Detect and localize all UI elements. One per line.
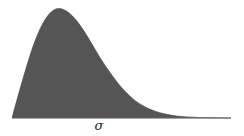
density-area [12,8,231,118]
x-axis-label: σ [92,118,106,133]
density-plot [0,0,244,136]
